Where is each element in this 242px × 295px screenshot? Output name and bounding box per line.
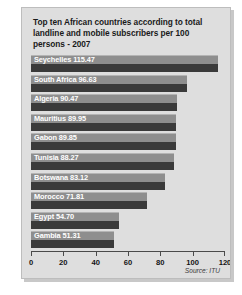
x-axis-tick <box>31 251 32 256</box>
x-axis-tick <box>224 251 225 256</box>
x-axis-tick <box>193 251 194 256</box>
bar-segment-bottom <box>31 162 174 170</box>
bar-value-label: Tunisia 88.27 <box>34 153 79 162</box>
bar-value-label: Morocco 71.81 <box>34 192 84 201</box>
x-axis-tick-label: 120 <box>212 258 231 267</box>
x-axis <box>31 251 225 257</box>
bar-value-label: Mauritius 89.95 <box>34 114 86 123</box>
bar-segment-bottom <box>31 221 119 229</box>
bar-value-label: Botswana 83.12 <box>34 173 88 182</box>
source-note: Source: ITU <box>185 267 220 274</box>
plot-area: Seychelles 115.47South Africa 96.63Alger… <box>31 55 225 251</box>
x-axis-tick-label: 0 <box>21 258 44 267</box>
bar-value-label: Algeria 90.47 <box>34 94 78 103</box>
x-axis-tick-label: 100 <box>180 258 206 267</box>
bar-value-label: South Africa 96.63 <box>34 75 96 84</box>
bar-segment-bottom <box>31 201 147 209</box>
x-axis-tick-label: 40 <box>83 258 109 267</box>
chart-panel: Top ten African countries according to t… <box>21 7 231 279</box>
bar-segment-bottom <box>31 103 177 111</box>
bar-value-label: Egypt 54.70 <box>34 212 74 221</box>
bar-segment-bottom <box>31 123 176 131</box>
x-axis-tick <box>63 251 64 256</box>
bar-segment-bottom <box>31 182 165 190</box>
bar-value-label: Gambia 51.31 <box>34 231 80 240</box>
chart-title: Top ten African countries according to t… <box>33 17 219 51</box>
bar-value-label: Gabon 89.85 <box>34 133 77 142</box>
bar-segment-bottom <box>31 84 187 92</box>
x-axis-tick <box>96 251 97 256</box>
x-axis-tick-label: 20 <box>50 258 76 267</box>
bar-segment-bottom <box>31 64 218 72</box>
bar-segment-bottom <box>31 142 176 150</box>
x-axis-tick <box>128 251 129 256</box>
bar-value-label: Seychelles 115.47 <box>34 55 95 64</box>
x-axis-tick <box>160 251 161 256</box>
x-axis-tick-label: 60 <box>115 258 141 267</box>
x-axis-tick-label: 80 <box>147 258 173 267</box>
chart-figure: Top ten African countries according to t… <box>0 0 242 295</box>
bar-segment-bottom <box>31 240 114 248</box>
